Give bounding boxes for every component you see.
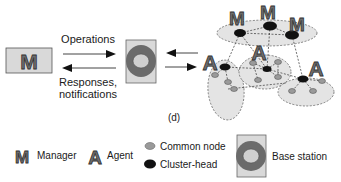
legend-cluster-head-label: Cluster-head — [160, 159, 217, 170]
legend-common-node-icon — [145, 143, 155, 150]
panel-label: (d) — [168, 112, 180, 123]
operations-label: Operations — [61, 33, 115, 45]
responses-label-line2: notifications — [59, 88, 118, 100]
legend-cluster-head-icon — [144, 160, 156, 169]
base-to-network-arrow — [165, 63, 197, 71]
base-station-icon — [126, 40, 156, 83]
manager-glyph-1: M — [229, 8, 245, 29]
responses-arrow — [62, 64, 116, 72]
legend-agent-icon: A — [88, 147, 102, 168]
agent-glyph-2: A — [251, 41, 266, 64]
manager-glyph-2: M — [260, 2, 276, 23]
legend-base-station-label: Base station — [272, 151, 327, 162]
agent-glyph-1: A — [202, 51, 217, 74]
legend-manager-icon: M — [15, 148, 29, 167]
responses-label-line1: Responses, — [59, 76, 117, 88]
network-to-base-arrow — [166, 49, 198, 57]
diagram-canvas: M Operations Responses, notifications — [0, 0, 341, 182]
manager-glyph: M — [20, 50, 38, 73]
operations-arrow — [63, 50, 116, 58]
manager-box: M — [6, 48, 52, 73]
agent-glyph-3: A — [308, 57, 323, 80]
legend-common-node-label: Common node — [160, 141, 226, 152]
manager-glyph-3: M — [289, 14, 305, 35]
legend: M Manager A Agent Common node Cluster-he… — [15, 135, 327, 177]
legend-manager-label: Manager — [37, 150, 77, 161]
legend-base-station-icon — [236, 135, 266, 177]
legend-agent-label: Agent — [107, 150, 133, 161]
